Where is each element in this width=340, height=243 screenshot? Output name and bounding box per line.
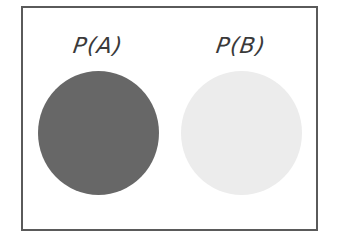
set-a-label: P(A) xyxy=(36,33,160,59)
set-a-circle xyxy=(38,71,159,195)
set-b-label: P(B) xyxy=(179,33,303,59)
set-b-circle xyxy=(181,71,302,195)
